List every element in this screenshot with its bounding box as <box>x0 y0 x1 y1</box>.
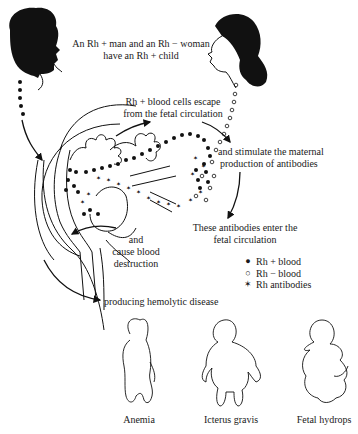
legend: ● Rh + blood ○ Rh − blood ✶ Rh antibodie… <box>244 256 311 291</box>
svg-text:✶: ✶ <box>126 184 131 191</box>
legend-item-rh-positive: ● Rh + blood <box>244 256 311 268</box>
svg-text:✶: ✶ <box>166 200 171 207</box>
caption-fetal-hydrops: Fetal hydrops <box>284 414 358 425</box>
arrow-escape <box>116 122 150 136</box>
escape-label: Rh + blood cells escape from the fetal c… <box>118 96 228 120</box>
open-dot-icon: ○ <box>244 268 252 280</box>
svg-text:✶: ✶ <box>146 194 151 201</box>
svg-text:✶: ✶ <box>116 180 121 187</box>
stimulate-label-line-2: production of antibodies <box>218 158 324 170</box>
parents-label-line-2: have an Rh + child <box>66 50 216 62</box>
parents-label-line-1: An Rh + man and an Rh − woman <box>66 38 216 50</box>
svg-text:✶: ✶ <box>96 174 101 181</box>
stimulate-label: and stimulate the maternal production of… <box>218 146 324 170</box>
legend-item-rh-negative: ○ Rh − blood <box>244 268 311 280</box>
escape-label-line-2: from the fetal circulation <box>118 108 228 120</box>
disease-label: producing hemolytic disease <box>104 296 218 308</box>
enter-label: These antibodies enter the fetal circula… <box>180 222 310 246</box>
arrow-enter <box>228 172 240 218</box>
svg-text:✶: ✶ <box>193 154 198 161</box>
svg-text:✶: ✶ <box>201 162 206 169</box>
father-rh-positive-dots <box>18 80 25 116</box>
arrow-to-uterus <box>22 120 42 160</box>
svg-text:✶: ✶ <box>198 188 203 195</box>
infant-fetal-hydrops-illustration <box>303 320 348 403</box>
svg-text:✶: ✶ <box>136 188 141 195</box>
svg-text:✶: ✶ <box>106 176 111 183</box>
svg-text:✶: ✶ <box>80 198 85 205</box>
man-silhouette-icon <box>9 8 62 90</box>
destruction-label-line-1: and <box>106 234 166 246</box>
legend-label: Rh + blood <box>256 256 301 268</box>
filled-dot-icon: ● <box>244 256 252 268</box>
legend-item-rh-antibodies: ✶ Rh antibodies <box>244 279 311 291</box>
legend-label: Rh − blood <box>256 268 301 280</box>
stimulate-label-line-1: and stimulate the maternal <box>218 146 324 158</box>
diagram-artwork: ✶✶✶ ✶✶ ✶✶✶ ✶✶✶ ✶✶✶ ✶✶ <box>0 0 358 434</box>
antibody-icon: ✶ <box>244 279 252 291</box>
rh-antibodies: ✶✶✶ ✶✶ ✶✶✶ ✶✶✶ ✶✶✶ ✶✶ <box>80 154 206 209</box>
svg-text:✶: ✶ <box>190 170 195 177</box>
svg-text:✶: ✶ <box>156 198 161 205</box>
woman-silhouette-icon <box>208 14 267 88</box>
enter-label-line-2: fetal circulation <box>180 234 310 246</box>
destruction-label: and cause blood destruction <box>106 234 166 270</box>
svg-text:✶: ✶ <box>188 196 193 203</box>
caption-anemia: Anemia <box>99 414 179 425</box>
svg-text:✶: ✶ <box>176 202 181 209</box>
parents-label: An Rh + man and an Rh − woman have an Rh… <box>66 38 216 62</box>
destruction-label-line-3: destruction <box>106 258 166 270</box>
escape-label-line-1: Rh + blood cells escape <box>118 96 228 108</box>
caption-icterus-gravis: Icterus gravis <box>191 414 271 425</box>
svg-text:✶: ✶ <box>86 190 91 197</box>
enter-label-line-1: These antibodies enter the <box>180 222 310 234</box>
legend-label: Rh antibodies <box>256 279 311 291</box>
infant-icterus-gravis-illustration <box>202 320 260 406</box>
infant-anemia-illustration <box>123 319 155 403</box>
destruction-label-line-2: cause blood <box>106 246 166 258</box>
